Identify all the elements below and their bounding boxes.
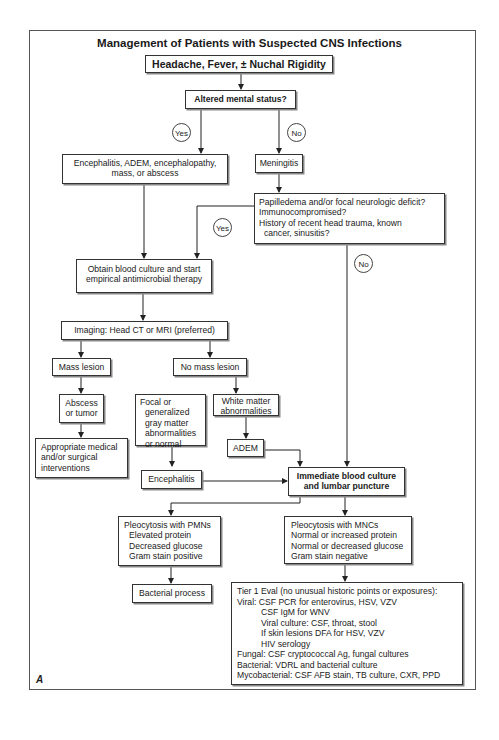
lumbar-line-1: Immediate blood culture bbox=[289, 471, 404, 481]
enceph-line-2: mass, or abscess bbox=[63, 168, 227, 178]
risk-line-1: Papilledema and/or focal neurologic defi… bbox=[259, 197, 440, 207]
no-mass-lesion-text: No mass lesion bbox=[181, 362, 240, 372]
presentation-text: Headache, Fever, ± Nuchal Rigidity bbox=[152, 58, 326, 70]
yes-label-1: Yes bbox=[172, 123, 191, 142]
panel-label: A bbox=[36, 674, 43, 685]
encephalitis-group-box: Encephalitis, ADEM, encephalopathy, mass… bbox=[62, 154, 228, 184]
pmn-line-4: Gram stain positive bbox=[124, 551, 215, 561]
bacterial-process-box: Bacterial process bbox=[132, 584, 212, 603]
interventions-line-1: Appropriate medical bbox=[41, 442, 122, 452]
lumbar-line-2: and lumbar puncture bbox=[289, 481, 404, 491]
enceph-line-1: Encephalitis, ADEM, encephalopathy, bbox=[63, 158, 227, 168]
yes-label-2: Yes bbox=[213, 218, 232, 237]
mass-lesion-text: Mass lesion bbox=[59, 362, 104, 372]
risk-line-2: Immunocompromised? bbox=[259, 207, 440, 217]
imaging-text: Imaging: Head CT or MRI (preferred) bbox=[74, 325, 215, 335]
no-mass-lesion-box: No mass lesion bbox=[173, 358, 247, 376]
gray-line-1: Focal or bbox=[140, 397, 201, 407]
encephalitis-box: Encephalitis bbox=[141, 470, 202, 489]
gray-line-2: generalized bbox=[140, 407, 201, 417]
risk-line-3: History of recent head trauma, known bbox=[259, 218, 440, 228]
mass-lesion-box: Mass lesion bbox=[52, 358, 111, 376]
pmn-findings-box: Pleocytosis with PMNs Elevated protein D… bbox=[118, 516, 221, 566]
gray-line-3: gray matter bbox=[140, 418, 201, 428]
risk-line-4: cancer, sinusitis? bbox=[259, 228, 440, 238]
tier1-bacterial: Bacterial: VDRL and bacterial culture bbox=[237, 660, 457, 671]
abscess-line-2: or tumor bbox=[60, 408, 103, 418]
tier1-viral-2: CSF IgM for WNV bbox=[237, 607, 457, 618]
altered-mental-status-box: Altered mental status? bbox=[185, 90, 296, 109]
abscess-line-1: Abscess bbox=[60, 398, 103, 408]
no-label-1: No bbox=[287, 123, 306, 142]
pmn-line-3: Decreased glucose bbox=[124, 541, 215, 551]
tier1-viral-3: Viral culture: CSF, throat, stool bbox=[237, 618, 457, 629]
interventions-line-2: and/or surgical bbox=[41, 452, 122, 462]
obtain-line-1: Obtain blood culture and start bbox=[77, 264, 211, 274]
tier1-mycobacterial: Mycobacterial: CSF AFB stain, TB culture… bbox=[237, 670, 457, 681]
encephalitis-text: Encephalitis bbox=[148, 474, 194, 484]
adem-text: ADEM bbox=[233, 443, 258, 453]
pmn-line-1: Pleocytosis with PMNs bbox=[124, 520, 215, 530]
interventions-line-3: interventions bbox=[41, 463, 122, 473]
no-label-2: No bbox=[354, 254, 373, 273]
tier1-heading: Tier 1 Eval (no unusual historic points … bbox=[237, 586, 457, 597]
tier1-fungal: Fungal: CSF cryptococcal Ag, fungal cult… bbox=[237, 649, 457, 660]
adem-box: ADEM bbox=[227, 439, 264, 457]
imaging-box: Imaging: Head CT or MRI (preferred) bbox=[61, 321, 228, 340]
tier1-eval-box: Tier 1 Eval (no unusual historic points … bbox=[231, 582, 463, 685]
obtain-culture-box: Obtain blood culture and start empirical… bbox=[76, 259, 212, 293]
lumbar-puncture-box: Immediate blood culture and lumbar punct… bbox=[288, 467, 405, 496]
interventions-box: Appropriate medical and/or surgical inte… bbox=[35, 438, 128, 478]
obtain-line-2: empirical antimicrobial therapy bbox=[77, 274, 211, 284]
altered-mental-status-text: Altered mental status? bbox=[194, 94, 287, 104]
risk-questions-box: Papilledema and/or focal neurologic defi… bbox=[254, 193, 445, 244]
tier1-viral-5: HIV serology bbox=[237, 639, 457, 650]
mnc-line-4: Gram stain negative bbox=[291, 551, 405, 561]
gray-line-4: abnormalities bbox=[140, 428, 201, 438]
gray-line-5: or normal bbox=[140, 439, 201, 449]
tier1-viral-1: Viral: CSF PCR for enterovirus, HSV, VZV bbox=[237, 597, 457, 608]
white-matter-box: White matter abnormalities bbox=[213, 394, 279, 416]
tier1-viral-4: If skin lesions DFA for HSV, VZV bbox=[237, 628, 457, 639]
mnc-line-2: Normal or increased protein bbox=[291, 530, 405, 540]
white-line-2: abnormalities bbox=[214, 407, 278, 417]
meningitis-box: Meningitis bbox=[255, 154, 303, 173]
bacterial-process-text: Bacterial process bbox=[139, 588, 205, 598]
abscess-box: Abscess or tumor bbox=[59, 394, 104, 423]
mnc-findings-box: Pleocytosis with MNCs Normal or increase… bbox=[284, 516, 412, 564]
mnc-line-1: Pleocytosis with MNCs bbox=[291, 520, 405, 530]
meningitis-text: Meningitis bbox=[260, 158, 299, 168]
gray-matter-box: Focal or generalized gray matter abnorma… bbox=[135, 394, 206, 446]
pmn-line-2: Elevated protein bbox=[124, 530, 215, 540]
mnc-line-3: Normal or decreased glucose bbox=[291, 541, 405, 551]
presentation-box: Headache, Fever, ± Nuchal Rigidity bbox=[145, 55, 333, 73]
